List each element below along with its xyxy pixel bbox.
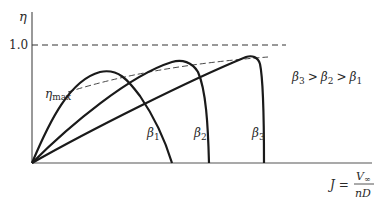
- efficiency-diagram: η 1.0 ηmax β1 β2 β3 β3>β2>β1 J = V∞ nD: [0, 0, 387, 202]
- beta-2-label: β2: [193, 126, 207, 142]
- beta-relation: β3>β2>β1: [291, 70, 362, 86]
- beta-1-curve: [32, 71, 172, 163]
- x-axis-numerator: V∞: [356, 170, 371, 184]
- x-axis-denominator: nD: [355, 187, 371, 200]
- y-tick-1-0: 1.0: [9, 38, 28, 52]
- eta-max-label: ηmax: [45, 87, 71, 102]
- y-axis-label: η: [19, 9, 27, 24]
- x-axis-label-lhs: J =: [327, 178, 349, 192]
